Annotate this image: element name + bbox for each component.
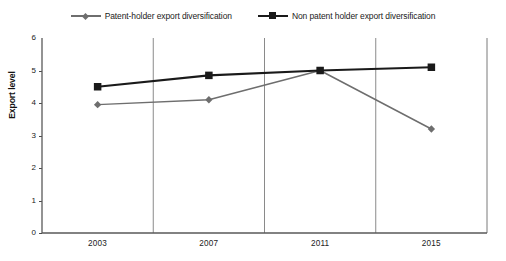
data-point-marker-square (316, 67, 324, 75)
data-point-marker-diamond (428, 125, 435, 132)
data-point-marker-square (94, 83, 102, 91)
data-point-marker-diamond (205, 96, 212, 103)
plot-svg (0, 0, 506, 261)
plot-area: Export level 01234562003200720112015 (0, 0, 506, 261)
data-point-marker-square (205, 72, 213, 80)
data-point-marker-diamond (94, 101, 101, 108)
data-point-marker-square (428, 64, 436, 72)
line-chart: Patent-holder export diversification Non… (0, 0, 506, 261)
